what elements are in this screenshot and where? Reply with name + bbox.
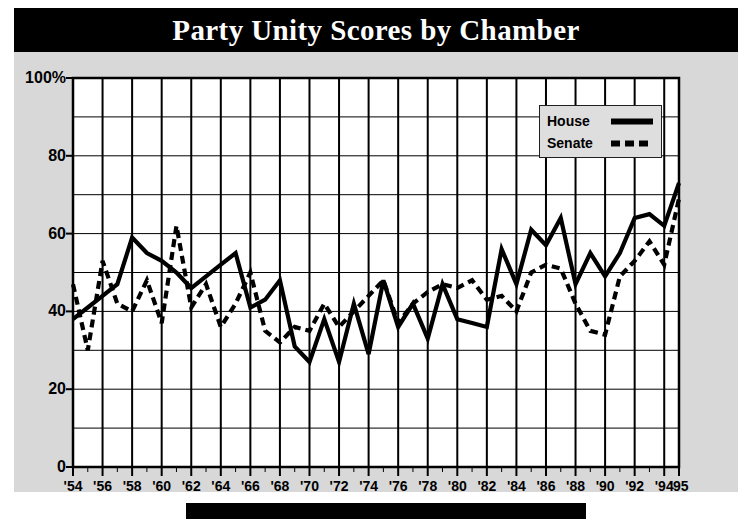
chart-title-bar: Party Unity Scores by Chamber [14, 8, 738, 52]
legend-item-house: House [547, 110, 654, 132]
x-axis-tick-label: '95 [662, 478, 696, 494]
y-axis-tick-label: 100% [14, 69, 66, 87]
chart-legend: House Senate [539, 105, 662, 158]
legend-label-house: House [547, 113, 590, 129]
legend-swatch-dashed [610, 138, 654, 149]
y-axis-tick-label: 20 [14, 380, 66, 398]
page-title: Party Unity Scores by Chamber [172, 14, 579, 47]
y-axis-tick-label: 60 [14, 225, 66, 243]
chart-figure: Party Unity Scores by Chamber House Sena… [0, 0, 752, 532]
y-axis-tick-label: 80 [14, 147, 66, 165]
y-axis-tick-label: 40 [14, 302, 66, 320]
plot-area: House Senate 020406080100%'54'56'58'60'6… [14, 52, 738, 492]
chart-panel: Party Unity Scores by Chamber House Sena… [14, 8, 738, 492]
legend-label-senate: Senate [547, 135, 593, 151]
legend-item-senate: Senate [547, 132, 654, 154]
footer-caption-bar [186, 503, 586, 519]
legend-swatch-solid [610, 116, 654, 127]
y-axis-tick-label: 0 [14, 458, 66, 476]
